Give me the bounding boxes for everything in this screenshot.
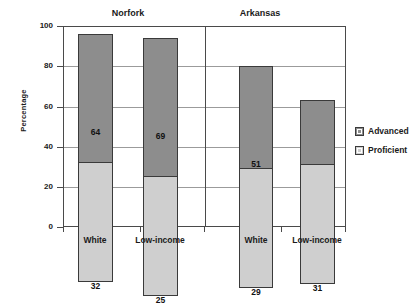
y-tick-label-40: 40 xyxy=(20,142,53,151)
bar-segment-advanced-arkansas-white[interactable]: 51 xyxy=(239,66,273,169)
bar-value-proficient-arkansas-white: 29 xyxy=(251,287,260,297)
y-tick-label-20: 20 xyxy=(20,182,53,191)
legend-label-advanced: Advanced xyxy=(368,126,409,136)
bar-segment-proficient-arkansas-white[interactable]: 29 xyxy=(239,168,273,288)
bar-segment-proficient-arkansas-lowincome[interactable]: 31 xyxy=(300,164,335,284)
y-tick-label-60: 60 xyxy=(20,102,53,111)
group-title-norfork: Norfork xyxy=(78,8,178,18)
bar-value-proficient-norfork-white: 32 xyxy=(91,281,100,291)
bar-segment-advanced-norfork-lowincome[interactable]: 69 xyxy=(143,38,178,177)
y-tick-label-0: 0 xyxy=(20,222,53,231)
legend-label-proficient: Proficient xyxy=(368,145,407,155)
bar-value-proficient-norfork-lowincome: 25 xyxy=(156,295,165,305)
x-tick-label-norfork-lowincome: Low-income xyxy=(115,235,205,245)
legend-item-proficient[interactable]: Proficient xyxy=(355,145,409,155)
y-tick-label-100: 100 xyxy=(20,21,53,30)
group-divider xyxy=(205,27,206,226)
bar-segment-proficient-norfork-white[interactable]: 32 xyxy=(78,162,113,282)
x-tick-center xyxy=(204,227,205,232)
legend-swatch-advanced-icon xyxy=(355,127,364,136)
legend-item-advanced[interactable]: Advanced xyxy=(355,126,409,136)
x-tick-label-arkansas-lowincome: Low-income xyxy=(272,235,362,245)
x-tick-right xyxy=(345,227,346,232)
x-tick-mid-1 xyxy=(140,227,141,232)
legend-swatch-proficient-icon xyxy=(355,146,364,155)
bar-value-proficient-arkansas-lowincome: 31 xyxy=(313,283,322,293)
bar-value-advanced-norfork-lowincome: 69 xyxy=(156,131,165,141)
x-tick-left xyxy=(63,227,64,232)
y-tick-label-80: 80 xyxy=(20,61,53,70)
bar-segment-advanced-norfork-white[interactable]: 64 xyxy=(78,34,113,163)
x-tick-mid-2 xyxy=(281,227,282,232)
group-title-arkansas: Arkansas xyxy=(210,8,310,18)
bar-value-advanced-norfork-white: 64 xyxy=(91,127,100,137)
legend: Advanced Proficient xyxy=(355,126,409,164)
